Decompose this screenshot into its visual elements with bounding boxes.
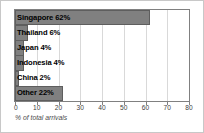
x-tick-label: 80: [185, 105, 192, 112]
bar-label-other: Other 22%: [17, 90, 54, 98]
gridline: [189, 10, 190, 101]
x-tick-label: 30: [77, 105, 84, 112]
bar-row: Other 22%: [15, 86, 189, 102]
bar-row: China 2%: [15, 71, 189, 87]
bar-label-china: China 2%: [17, 74, 50, 82]
chart-figure: Singapore 62%Thailand 6%Japan 4%Indonesi…: [0, 0, 204, 133]
bar-series: Singapore 62%Thailand 6%Japan 4%Indonesi…: [15, 10, 189, 101]
x-axis-label: % of total arrivals: [15, 115, 67, 122]
bar-label-indonesia: Indonesia 4%: [17, 59, 64, 67]
x-tick-label: 60: [142, 105, 149, 112]
x-tick-label: 20: [55, 105, 62, 112]
plot-area: Singapore 62%Thailand 6%Japan 4%Indonesi…: [14, 9, 190, 102]
bar-label-thailand: Thailand 6%: [17, 29, 60, 37]
bar-row: Indonesia 4%: [15, 55, 189, 71]
x-tick-label: 50: [120, 105, 127, 112]
bar-label-singapore: Singapore 62%: [17, 14, 70, 22]
x-tick-label: 40: [98, 105, 105, 112]
bar-row: Japan 4%: [15, 40, 189, 56]
x-tick-label: 0: [14, 105, 18, 112]
x-tick-label: 10: [33, 105, 40, 112]
bar-row: Singapore 62%: [15, 10, 189, 26]
bar-label-japan: Japan 4%: [17, 44, 51, 52]
bar-row: Thailand 6%: [15, 25, 189, 41]
x-axis: 01020304050607080: [14, 102, 190, 114]
x-tick-label: 70: [164, 105, 171, 112]
